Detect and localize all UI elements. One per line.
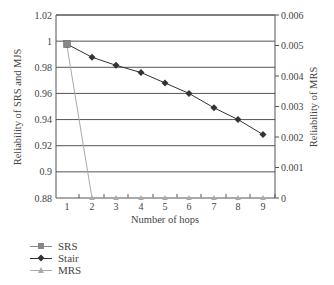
legend-item-mrs: MRS xyxy=(30,264,81,276)
svg-text:1: 1 xyxy=(47,36,52,47)
svg-text:3: 3 xyxy=(114,201,119,212)
left-y-ticks: 0.880.90.920.940.960.9811.02 xyxy=(35,10,53,204)
triangle-marker-icon xyxy=(30,265,52,275)
svg-text:0.005: 0.005 xyxy=(281,40,304,51)
svg-text:4: 4 xyxy=(139,201,144,212)
legend-label: Stair xyxy=(58,252,79,264)
svg-text:6: 6 xyxy=(187,201,192,212)
svg-text:0.006: 0.006 xyxy=(281,10,304,21)
svg-text:0.88: 0.88 xyxy=(35,193,53,204)
svg-text:5: 5 xyxy=(163,201,168,212)
x-axis-label: Number of hops xyxy=(131,214,199,225)
svg-text:0.98: 0.98 xyxy=(35,62,53,73)
legend-item-srs: SRS xyxy=(30,240,81,252)
legend-label: SRS xyxy=(58,240,78,252)
svg-text:1.02: 1.02 xyxy=(35,10,53,21)
svg-text:0.001: 0.001 xyxy=(281,162,304,173)
svg-text:0.9: 0.9 xyxy=(40,166,53,177)
svg-text:0.004: 0.004 xyxy=(281,71,304,82)
legend-item-stair: Stair xyxy=(30,252,81,264)
grid-lines xyxy=(56,15,275,172)
diamond-marker-icon xyxy=(30,253,52,263)
svg-text:1: 1 xyxy=(65,201,70,212)
svg-text:0.003: 0.003 xyxy=(281,101,304,112)
svg-text:0: 0 xyxy=(281,193,286,204)
legend: SRS Stair MRS xyxy=(30,240,81,276)
svg-text:0.96: 0.96 xyxy=(35,88,53,99)
svg-text:0.94: 0.94 xyxy=(35,114,53,125)
right-y-axis-label: Reliability of MRS xyxy=(308,67,319,148)
left-y-axis-label: Reliability of SRS and MJS xyxy=(12,49,23,166)
svg-text:9: 9 xyxy=(261,201,266,212)
svg-text:0.002: 0.002 xyxy=(281,132,304,143)
svg-text:8: 8 xyxy=(236,201,241,212)
svg-text:0.92: 0.92 xyxy=(35,140,53,151)
data-series xyxy=(64,40,267,200)
axes xyxy=(56,15,275,198)
x-ticks: 123456789 xyxy=(65,194,276,212)
square-marker-icon xyxy=(30,241,52,251)
svg-text:2: 2 xyxy=(90,201,95,212)
right-y-ticks: 00.0010.0020.0030.0040.0050.006 xyxy=(275,10,304,204)
legend-label: MRS xyxy=(58,264,81,276)
svg-text:7: 7 xyxy=(212,201,217,212)
